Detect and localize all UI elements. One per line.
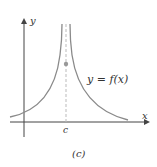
function-label: y = f(x) <box>86 73 128 86</box>
figure-caption: (c) <box>72 148 86 159</box>
y-axis-label: y <box>29 15 36 26</box>
x-axis-label: x <box>142 110 148 121</box>
graph: y x y = f(x) c (c) <box>0 0 157 167</box>
asymptote-label: c <box>63 125 68 135</box>
curve-right <box>70 24 128 120</box>
curve-left <box>10 24 62 117</box>
point-dot <box>64 62 68 66</box>
